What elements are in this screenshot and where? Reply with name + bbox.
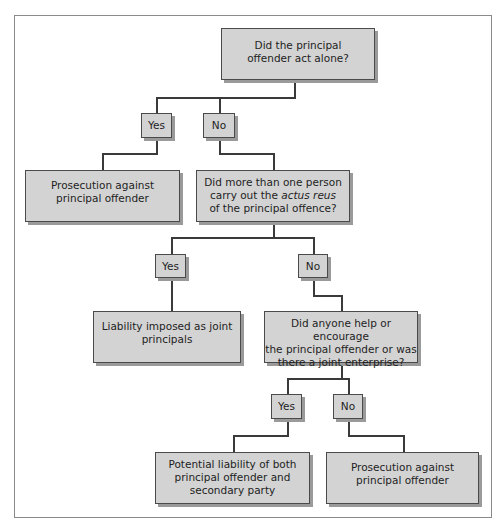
connector <box>219 138 221 154</box>
answer-yes: Yes <box>141 113 172 138</box>
connector <box>156 97 296 99</box>
connector <box>403 435 405 452</box>
result-prosecution-principal-2: Prosecution against principal offender <box>326 452 479 504</box>
node-text: Liability imposed as joint <box>102 320 233 333</box>
connector <box>313 295 342 297</box>
question-acted-alone: Did the principal offender act alone? <box>221 28 375 80</box>
connector <box>273 222 275 238</box>
node-text: No <box>212 119 226 132</box>
node-text: offender act alone? <box>247 52 349 65</box>
connector <box>219 97 221 113</box>
connector <box>102 153 158 155</box>
node-text: No <box>341 400 355 413</box>
result-both-liable: Potential liability of both principal of… <box>155 452 310 504</box>
node-text: there a joint enterprise? <box>265 356 417 369</box>
connector <box>233 435 235 452</box>
node-text: carry out the actus reus <box>204 189 342 202</box>
node-text: of the principal offence? <box>204 202 342 215</box>
connector <box>156 138 158 154</box>
connector <box>102 153 104 170</box>
node-text: principal offender and <box>168 471 296 484</box>
answer-no: No <box>333 394 363 419</box>
connector <box>171 237 173 254</box>
latin-term: actus reus <box>281 189 336 201</box>
connector <box>273 153 275 170</box>
node-text: Did anyone help or encourage <box>265 317 417 343</box>
node-text: Yes <box>162 260 179 273</box>
answer-no: No <box>203 113 235 138</box>
node-text: Prosecution against <box>351 461 454 474</box>
connector <box>219 153 274 155</box>
connector <box>313 278 315 296</box>
connector <box>348 419 350 436</box>
diagram-frame <box>14 15 492 518</box>
result-joint-principals: Liability imposed as joint principals <box>93 311 241 363</box>
node-text: Did the principal <box>247 39 349 52</box>
node-text: secondary party <box>168 484 296 497</box>
node-text: principals <box>102 333 233 346</box>
node-text: the principal offender or was <box>265 343 417 356</box>
node-text: Prosecution against <box>51 179 154 192</box>
node-text: Yes <box>278 400 295 413</box>
node-text: Yes <box>148 119 165 132</box>
answer-yes: Yes <box>271 394 302 419</box>
question-multiple-actus-reus: Did more than one person carry out the a… <box>196 170 350 222</box>
connector <box>294 80 296 98</box>
connector <box>156 97 158 113</box>
connector <box>287 378 289 394</box>
connector <box>171 237 314 239</box>
node-text: principal offender <box>51 192 154 205</box>
result-prosecution-principal: Prosecution against principal offender <box>25 170 180 222</box>
node-text: carry out the <box>210 189 281 201</box>
connector <box>348 435 404 437</box>
connector <box>171 278 173 311</box>
node-text: Potential liability of both <box>168 458 296 471</box>
node-text: No <box>306 260 320 273</box>
connector <box>341 295 343 311</box>
connector <box>287 378 349 380</box>
question-help-or-joint-enterprise: Did anyone help or encourage the princip… <box>264 311 418 363</box>
connector <box>348 378 350 394</box>
connector <box>233 435 289 437</box>
answer-no: No <box>298 254 328 278</box>
answer-yes: Yes <box>155 254 186 278</box>
node-text: principal offender <box>351 474 454 487</box>
node-text: Did more than one person <box>204 176 342 189</box>
connector <box>287 419 289 436</box>
connector <box>313 237 315 254</box>
